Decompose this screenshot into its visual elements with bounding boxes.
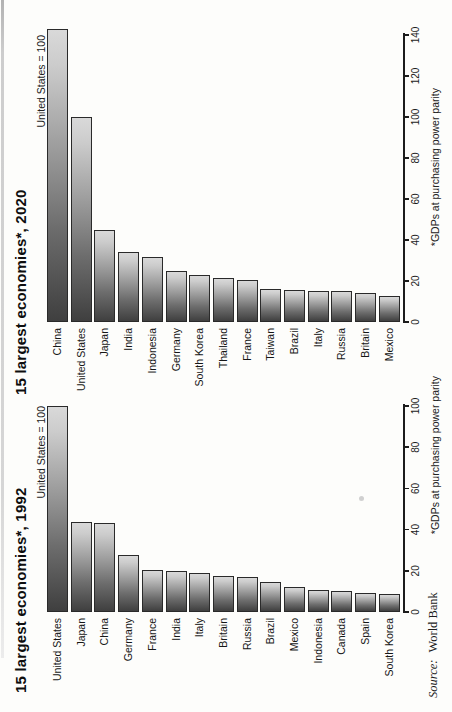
bar	[331, 591, 352, 612]
bar-label: Mexico	[289, 618, 300, 651]
bar	[308, 590, 329, 612]
axis-tick	[403, 446, 409, 448]
bar-label: Britain	[360, 328, 371, 358]
bar	[237, 280, 258, 322]
axis-tick	[403, 198, 409, 200]
bar	[379, 595, 400, 613]
bar-label: Indonesia	[147, 328, 158, 374]
bar-label: Indonesia	[313, 618, 324, 664]
bar	[308, 291, 329, 322]
bar-label: Russia	[336, 328, 347, 360]
axis-tick	[403, 321, 409, 323]
bar-label: Canada	[336, 618, 347, 655]
bar-label: Thailand	[218, 328, 229, 368]
scan-edge-artifact	[1, 0, 4, 658]
bar	[284, 587, 305, 612]
bar	[118, 555, 139, 612]
scanned-chart-page: 15 largest economies*, 1992 15 largest e…	[0, 0, 452, 712]
bar	[118, 252, 139, 322]
bar-label: France	[147, 618, 158, 651]
bar	[331, 291, 352, 322]
bar-label: Japan	[76, 618, 87, 647]
axis-tick-label: 120	[410, 59, 421, 93]
axis-tick-label: 60	[410, 471, 421, 505]
bar-label: India	[123, 328, 134, 351]
axis-tick-label: 0	[410, 595, 421, 629]
axis-footnote-1992: *GDPs at purchasing power parity	[429, 376, 441, 534]
bar	[142, 570, 163, 612]
axis-tick	[403, 34, 409, 36]
bar-label: India	[171, 618, 182, 641]
bar-label: China	[99, 618, 110, 645]
axis-tick	[403, 157, 409, 159]
axis-tick	[403, 488, 409, 490]
bar	[237, 577, 258, 612]
bar	[71, 117, 92, 322]
axis-tick-label: 140	[410, 18, 421, 52]
axis-line	[403, 404, 405, 612]
index-annotation-1992: United States = 100	[35, 406, 47, 499]
bar	[166, 271, 187, 322]
bar-label: Russia	[242, 618, 253, 650]
bar	[260, 582, 281, 612]
chart-title-2020: 15 largest economies*, 2020	[12, 189, 29, 395]
bar	[71, 522, 92, 612]
axis-tick-label: 100	[410, 389, 421, 423]
axis-tick	[403, 611, 409, 613]
bar	[47, 406, 68, 612]
bar-label: Germany	[171, 328, 182, 371]
axis-tick	[403, 570, 409, 572]
bar	[142, 257, 163, 322]
bar-label: Brazil	[265, 618, 276, 644]
bar	[189, 573, 210, 612]
bar-label: China	[52, 328, 63, 355]
bar-label: Brazil	[289, 328, 300, 354]
bar-label: South Korea	[194, 328, 205, 386]
axis-tick	[403, 280, 409, 282]
bar	[355, 293, 376, 322]
axis-tick-label: 100	[410, 100, 421, 134]
bar	[189, 275, 210, 322]
bar-label: Britain	[218, 618, 229, 648]
source-prefix: Source:	[426, 660, 440, 698]
source-line: Source:World Bank	[426, 592, 441, 698]
axis-tick-label: 80	[410, 430, 421, 464]
index-annotation-2020: United States = 100	[35, 35, 47, 128]
bar	[94, 523, 115, 612]
bar-label: Mexico	[384, 328, 395, 361]
bar-label: Germany	[123, 618, 134, 661]
axis-tick-label: 0	[410, 305, 421, 339]
axis-tick-label: 40	[410, 513, 421, 547]
bar-label: United States	[52, 618, 63, 681]
bar	[166, 571, 187, 612]
axis-tick	[403, 239, 409, 241]
bar-label: France	[242, 328, 253, 361]
bar-label: Italy	[194, 618, 205, 637]
axis-footnote-2020: *GDPs at purchasing power parity	[429, 88, 441, 246]
bar	[260, 289, 281, 322]
bar-label: Italy	[313, 328, 324, 347]
bar	[355, 593, 376, 612]
axis-tick	[403, 405, 409, 407]
scan-speck-artifact	[359, 496, 364, 501]
axis-tick-label: 40	[410, 223, 421, 257]
rotated-landscape-canvas: 15 largest economies*, 1992 15 largest e…	[0, 0, 452, 712]
bar-label: South Korea	[384, 618, 395, 676]
bar	[379, 296, 400, 322]
bar-label: United States	[76, 328, 87, 391]
bar-label: Taiwan	[265, 328, 276, 361]
axis-tick-label: 20	[410, 264, 421, 298]
bar	[47, 29, 68, 322]
bar-label: Spain	[360, 618, 371, 645]
axis-tick-label: 20	[410, 554, 421, 588]
source-text: World Bank	[426, 592, 440, 652]
bar	[213, 576, 234, 612]
axis-tick	[403, 116, 409, 118]
bar	[284, 290, 305, 322]
bar-label: Japan	[99, 328, 110, 357]
axis-tick	[403, 75, 409, 77]
bar	[213, 278, 234, 322]
axis-tick	[403, 529, 409, 531]
axis-tick-label: 60	[410, 182, 421, 216]
axis-tick-label: 80	[410, 141, 421, 175]
